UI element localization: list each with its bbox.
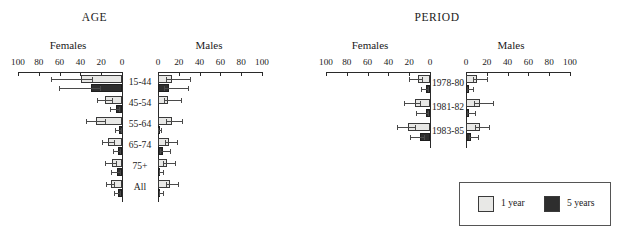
legend-label-1-year: 1 year	[501, 197, 525, 208]
error-bar-cap	[424, 135, 425, 140]
error-bar-cap	[106, 182, 107, 187]
error-bar-cap	[121, 128, 122, 133]
male-error-bar	[166, 79, 190, 80]
error-bar-cap	[182, 119, 183, 124]
error-bar-cap	[115, 128, 116, 133]
axis-tick-label: 80	[230, 57, 252, 67]
error-bar-cap	[164, 98, 165, 103]
female-error-bar	[397, 127, 416, 128]
error-bar-cap	[166, 182, 167, 187]
error-bar-cap	[161, 128, 162, 133]
error-bar-cap	[473, 87, 474, 92]
error-bar-cap	[404, 101, 405, 106]
error-bar-cap	[158, 128, 159, 133]
female-error-bar	[410, 137, 424, 138]
error-bar-cap	[163, 191, 164, 196]
error-bar-cap	[493, 101, 494, 106]
error-bar-cap	[478, 135, 479, 140]
male-error-bar	[163, 163, 174, 164]
error-bar-cap	[420, 101, 421, 106]
female-error-bar	[111, 172, 120, 173]
axis-tick-label: 80	[538, 57, 560, 67]
error-bar-cap	[166, 119, 167, 124]
male-error-bar	[164, 88, 188, 89]
error-bar-cap	[467, 87, 468, 92]
error-bar-cap	[159, 170, 160, 175]
error-bar-cap	[110, 107, 111, 112]
error-bar-cap	[409, 77, 410, 82]
male-error-bar	[467, 113, 475, 114]
error-bar-cap	[188, 86, 189, 91]
error-bar-cap	[160, 149, 161, 154]
error-bar-cap	[428, 111, 429, 116]
error-bar-cap	[113, 149, 114, 154]
male-error-bar	[166, 121, 182, 122]
error-bar-cap	[86, 119, 87, 124]
error-bar-cap	[397, 125, 398, 130]
error-bar-cap	[178, 182, 179, 187]
error-bar-cap	[114, 182, 115, 187]
female-error-bar	[409, 79, 421, 80]
error-bar-cap	[159, 191, 160, 196]
error-bar-cap	[475, 111, 476, 116]
error-bar-cap	[119, 107, 120, 112]
female-error-bar	[51, 79, 92, 80]
legend-swatch-1-year	[478, 196, 494, 212]
chart-title-age: AGE	[0, 11, 249, 23]
error-bar-cap	[51, 77, 52, 82]
error-bar-cap	[102, 140, 103, 145]
axis-tick-label: 60	[209, 57, 231, 67]
female-error-bar	[110, 109, 119, 110]
error-bar-cap	[112, 98, 113, 103]
error-bar-cap	[170, 149, 171, 154]
chart-panel-age: AGE Females Males 100806040200 020406080…	[0, 0, 309, 245]
axis-heading-males-period: Males	[476, 39, 546, 51]
male-error-bar	[164, 100, 181, 101]
error-bar-cap	[415, 125, 416, 130]
error-bar-cap	[120, 191, 121, 196]
error-bar-cap	[467, 111, 468, 116]
female-error-bar	[97, 100, 112, 101]
axis-tick-label: 60	[517, 57, 539, 67]
error-bar-cap	[416, 111, 417, 116]
error-bar-cap	[163, 170, 164, 175]
female-error-bar	[416, 113, 427, 114]
plot-area-period: 1978-801981-821983-85	[300, 72, 618, 182]
axis-heading-females-age: Females	[33, 39, 103, 51]
error-bar-cap	[163, 161, 164, 166]
error-bar-cap	[487, 77, 488, 82]
error-bar-cap	[177, 140, 178, 145]
axis-tick-label: 20	[168, 57, 190, 67]
female-error-bar	[404, 103, 420, 104]
male-error-bar	[474, 103, 493, 104]
error-bar-cap	[181, 98, 182, 103]
female-error-bar	[106, 184, 113, 185]
axis-tick-label: 40	[189, 57, 211, 67]
error-bar-cap	[97, 98, 98, 103]
female-error-bar	[59, 88, 101, 89]
error-bar-cap	[165, 140, 166, 145]
error-bar-cap	[105, 119, 106, 124]
female-error-bar	[102, 142, 113, 143]
error-bar-cap	[473, 77, 474, 82]
error-bar-cap	[111, 170, 112, 175]
legend-swatch-5-years	[544, 196, 560, 212]
female-error-bar	[113, 151, 120, 152]
error-bar-cap	[410, 135, 411, 140]
error-bar-cap	[475, 125, 476, 130]
legend-label-5-years: 5 years	[567, 197, 594, 208]
female-error-bar	[105, 163, 115, 164]
error-bar-cap	[120, 170, 121, 175]
error-bar-cap	[114, 140, 115, 145]
error-bar-cap	[469, 135, 470, 140]
axis-heading-females-period: Females	[335, 39, 405, 51]
axis-tick-label: 20	[476, 57, 498, 67]
error-bar-cap	[164, 86, 165, 91]
error-bar-cap	[175, 161, 176, 166]
chart-legend: 1 year 5 years	[459, 182, 611, 226]
error-bar-cap	[105, 161, 106, 166]
error-bar-cap	[489, 125, 490, 130]
axis-tick-label: 0	[147, 57, 169, 67]
error-bar-cap	[190, 77, 191, 82]
female-error-bar	[421, 89, 428, 90]
